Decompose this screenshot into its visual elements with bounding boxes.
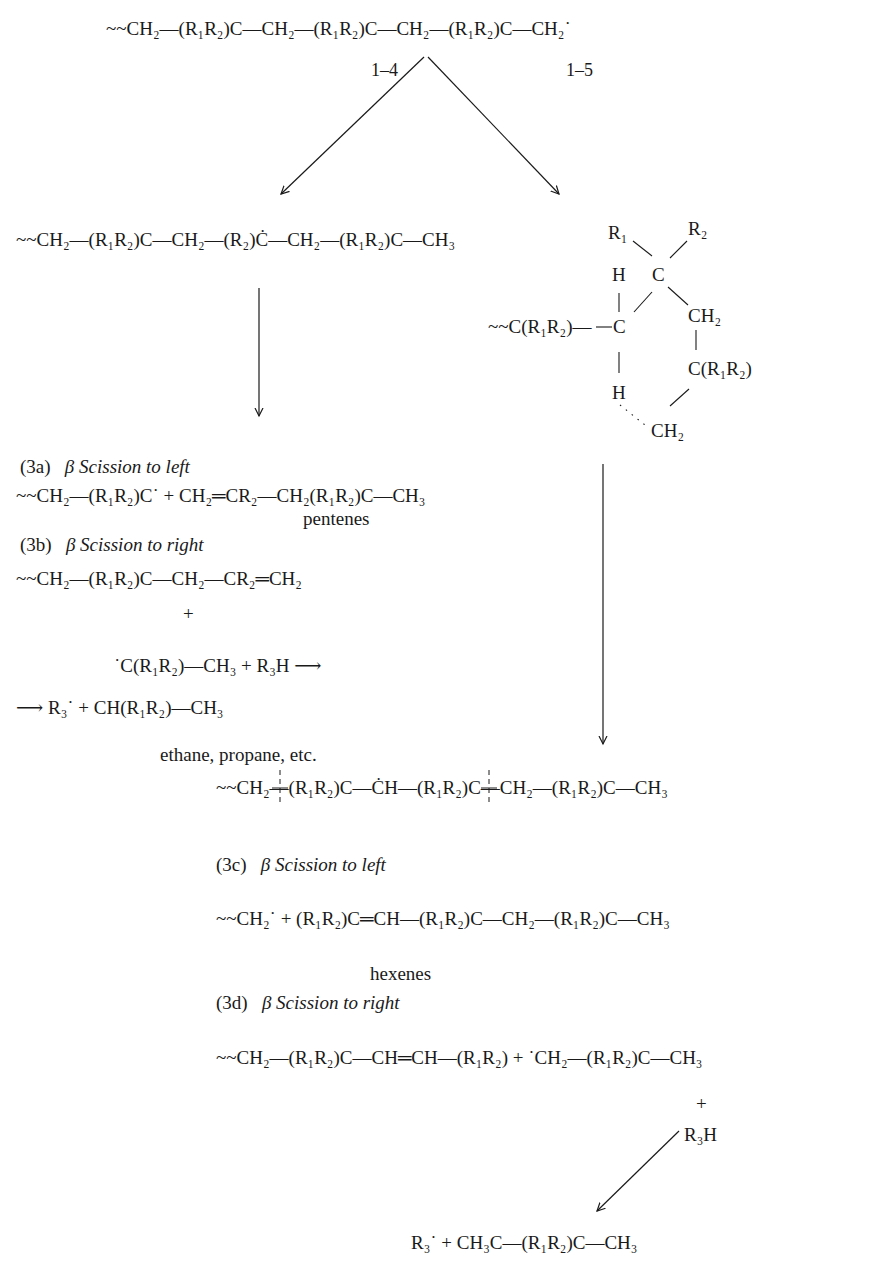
step-id: (3c) — [216, 854, 247, 875]
step-3c-equation: ~~CH₂˙ + (R₁R₂)C═CH—(R₁R₂)C—CH₂—(R₁R₂)C—… — [216, 908, 670, 930]
ring-atom-r1: R₁ — [608, 222, 627, 244]
step-3d-heading: (3d) β Scission to right — [216, 992, 400, 1014]
label-1-5: 1–5 — [566, 59, 593, 81]
step-3d-plus: + — [696, 1093, 707, 1115]
step-title: β Scission to left — [261, 854, 386, 875]
right-branch-radical: ~~CH₂—(R₁R₂)C—ĊH—(R₁R₂)C—CH₂—(R₁R₂)C—CH₃ — [216, 777, 668, 799]
step-3a-equation: ~~CH₂—(R₁R₂)C˙ + CH₂═CR₂—CH₂(R₁R₂)C—CH₃ — [16, 485, 425, 507]
step-3d-reagent: R₃H — [684, 1124, 717, 1146]
arrow-1-4 — [281, 57, 424, 194]
step-3b-line1: ~~CH₂—(R₁R₂)C—CH₂—CR₂═CH₂ — [16, 568, 302, 590]
ring-atom-c-top: C — [652, 264, 665, 286]
ring-atom-ch2-a: CH₂ — [688, 305, 721, 327]
step-3b-line3: ⟶ R₃˙ + CH(R₁R₂)—CH₃ — [16, 697, 224, 719]
arrow-1-5 — [428, 57, 559, 194]
step-3c-product-note: hexenes — [370, 963, 431, 985]
ring-atom-ch2-b: CH₂ — [651, 420, 684, 442]
ring-atom-r2: R₂ — [688, 218, 707, 240]
label-1-4: 1–4 — [371, 59, 398, 81]
arrow-r3h-down — [597, 1131, 679, 1211]
left-branch-radical: ~~CH₂—(R₁R₂)C—CH₂—(R₂)Ċ—CH₂—(R₁R₂)C—CH₃ — [16, 229, 455, 251]
arrows-layer — [0, 0, 875, 1287]
step-3d-equation: ~~CH₂—(R₁R₂)C—CH═CH—(R₁R₂) + ˙CH₂—(R₁R₂)… — [216, 1047, 703, 1069]
ring-atom-chain: ~~C(R₁R₂)— — [488, 316, 591, 338]
step-3b-plus: + — [183, 603, 194, 625]
step-title: β Scission to right — [66, 534, 204, 555]
step-3b-line2: ˙C(R₁R₂)—CH₃ + R₃H ⟶ — [114, 655, 322, 677]
step-3c-heading: (3c) β Scission to left — [216, 854, 386, 876]
ring-atom-h-bottom: H — [612, 382, 626, 404]
step-title: β Scission to right — [262, 992, 400, 1013]
step-id: (3d) — [216, 992, 248, 1013]
step-3b-heading: (3b) β Scission to right — [20, 534, 204, 556]
ring-atom-h-top: H — [612, 264, 626, 286]
ring-atom-cr1r2: C(R₁R₂) — [688, 358, 752, 380]
ring-atom-c-mid: C — [613, 316, 626, 338]
step-3a-heading: (3a) β Scission to left — [20, 456, 190, 478]
step-id: (3b) — [20, 534, 52, 555]
start-chain: ~~CH₂—(R₁R₂)C—CH₂—(R₁R₂)C—CH₂—(R₁R₂)C—CH… — [106, 18, 571, 40]
step-id: (3a) — [20, 456, 51, 477]
step-3a-product-note: pentenes — [303, 508, 369, 530]
step-3d-result: R₃˙ + CH₃C—(R₁R₂)C—CH₃ — [411, 1232, 637, 1254]
step-title: β Scission to left — [65, 456, 190, 477]
step-3b-product-note: ethane, propane, etc. — [160, 744, 317, 766]
